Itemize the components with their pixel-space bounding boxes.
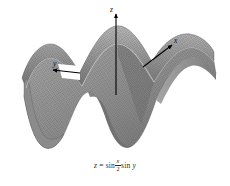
caption-fraction-numerator: x [115,158,120,164]
figure-caption: z = sinx2sin y [0,158,230,172]
caption-lhs: z [94,161,97,170]
surface-plot-svg: z x y [0,0,230,156]
caption-sin-2: sin [121,161,130,170]
caption-sin-1: sin [106,161,115,170]
caption-equals: = [99,161,103,170]
surface-mesh [22,26,216,148]
caption-fraction-denominator: 2 [115,166,120,172]
caption-rhs-var: y [133,161,137,170]
surface-plot-figure: z x y z = sinx2sin y [0,0,230,186]
plot-area: z x y [0,0,230,156]
y-axis-label: y [52,59,57,68]
caption-fraction: x2 [115,158,120,172]
z-axis-label: z [109,5,113,14]
x-axis-label: x [173,36,178,45]
